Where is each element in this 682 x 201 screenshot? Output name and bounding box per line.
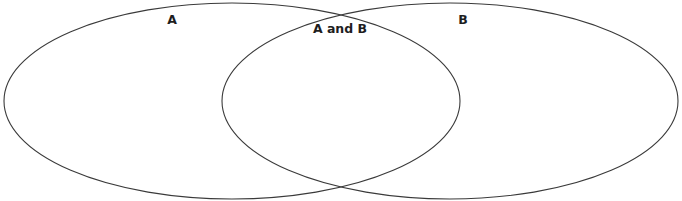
set-a-ellipse (4, 3, 460, 199)
venn-diagram: A A and B B (0, 0, 682, 201)
set-b-ellipse (222, 3, 678, 199)
set-a-label: A (167, 12, 177, 27)
intersection-label: A and B (313, 21, 367, 36)
set-b-label: B (458, 12, 468, 27)
